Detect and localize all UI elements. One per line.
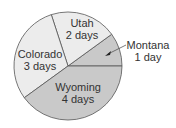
label-montana: Montana 1 day [124,39,172,63]
label-colorado: Colorado 3 days [16,48,64,72]
label-utah: Utah 2 days [62,17,102,41]
label-wyoming: Wyoming 4 days [54,81,102,105]
